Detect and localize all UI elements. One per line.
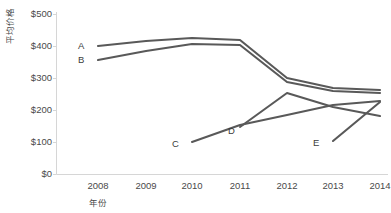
x-axis-title: 年份 [70,196,126,208]
series-label-e: E [313,138,319,148]
x-tick-2012: 2012 [265,180,309,191]
series-line-b [98,44,380,93]
series-label-a: A [78,41,84,51]
series-label-c: C [172,139,179,149]
x-tick-2009: 2009 [124,180,168,191]
series-label-b: B [78,55,84,65]
series-line-c [192,101,380,142]
x-tick-2010: 2010 [170,180,214,191]
x-tick-2008: 2008 [76,180,120,191]
x-tick-2011: 2011 [218,180,262,191]
y-axis-ticks [53,15,57,175]
x-tick-2014: 2014 [358,180,391,191]
x-tick-2013: 2013 [311,180,355,191]
line-chart: 平均价格 $500 $400 $300 $200 $100 $0 [0,0,391,213]
series-label-d: D [228,126,235,136]
